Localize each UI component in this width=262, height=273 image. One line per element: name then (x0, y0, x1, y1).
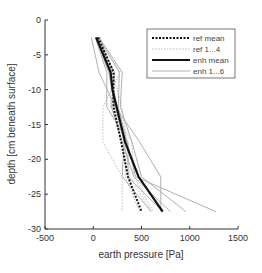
x-tick-label: 500 (134, 233, 149, 243)
x-axis-label: earth pressure [Pa] (98, 249, 183, 260)
chart: -500050010001500 0-5-10-15-20-25-30 eart… (0, 0, 262, 273)
y-tick-label: -5 (33, 50, 41, 60)
legend-label: ref 1...4 (193, 45, 221, 54)
x-tick-label: 1000 (180, 233, 200, 243)
legend-label: enh mean (193, 56, 229, 65)
x-tick-label: 0 (91, 233, 96, 243)
y-tick-label: 0 (36, 15, 41, 25)
y-tick-label: -25 (28, 189, 41, 199)
legend-label: enh 1...6 (193, 67, 225, 76)
legend-label: ref mean (193, 34, 225, 43)
legend: ref meanref 1...4enh meanenh 1...6 (147, 29, 235, 78)
y-tick-label: -10 (28, 85, 41, 95)
x-tick-label: -500 (36, 233, 54, 243)
y-axis-label: depth [cm beneath surface] (6, 63, 17, 184)
x-tick-label: 1500 (228, 233, 248, 243)
y-tick-label: -15 (28, 120, 41, 130)
y-tick-label: -20 (28, 154, 41, 164)
y-tick-label: -30 (28, 224, 41, 234)
